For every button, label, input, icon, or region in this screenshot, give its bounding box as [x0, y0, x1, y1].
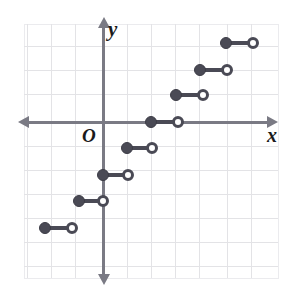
open-endpoint-dot: [197, 89, 209, 101]
open-endpoint-dot: [66, 222, 78, 234]
open-endpoint-dot: [221, 64, 233, 76]
open-endpoint-dot: [146, 142, 158, 154]
open-endpoint-dot: [247, 37, 259, 49]
closed-endpoint-dot: [121, 142, 133, 154]
closed-endpoint-dot: [145, 116, 157, 128]
step-function-plot: [0, 0, 296, 302]
closed-endpoint-dot: [39, 222, 51, 234]
open-endpoint-dot: [97, 195, 109, 207]
closed-endpoint-dot: [170, 89, 182, 101]
closed-endpoint-dot: [194, 64, 206, 76]
open-endpoint-dot: [172, 116, 184, 128]
closed-endpoint-dot: [97, 169, 109, 181]
closed-endpoint-dot: [73, 195, 85, 207]
open-endpoint-dot: [122, 169, 134, 181]
closed-endpoint-dot: [220, 37, 232, 49]
graph-figure: O y x: [0, 0, 296, 302]
